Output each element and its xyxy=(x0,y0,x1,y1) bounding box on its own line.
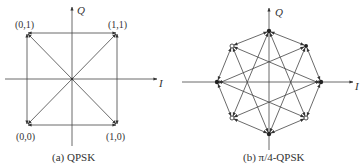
pi4-point-filled xyxy=(267,132,271,136)
pi4-chord xyxy=(270,48,305,132)
pi4-edge xyxy=(307,84,320,116)
pi4-point-filled xyxy=(319,80,323,84)
constellation-figure: Q I (0,1) (1,1) (0,0) (1,0) (a) QPSK xyxy=(0,0,363,167)
pi4-chord xyxy=(219,81,304,117)
pi4-edge xyxy=(234,119,267,133)
pi4-edge xyxy=(271,119,304,133)
pi4-q-label: Q xyxy=(275,6,283,18)
qpsk-point-label-10: (1,0) xyxy=(106,131,125,143)
qpsk-origin xyxy=(71,78,74,81)
qpsk-q-label: Q xyxy=(77,4,85,16)
qpsk-point-label-01: (0,1) xyxy=(15,19,34,31)
pi4-caption: (b) π/4-QPSK xyxy=(243,151,305,164)
pi4-chord xyxy=(219,47,304,83)
pi4-edge xyxy=(307,48,320,80)
qpsk-caption: (a) QPSK xyxy=(52,151,95,164)
pi4-point-filled xyxy=(215,80,219,84)
pi4-chord xyxy=(234,81,319,117)
qpsk-i-label: I xyxy=(158,77,164,89)
pi4-edge xyxy=(218,84,231,116)
pi4-edge xyxy=(218,48,231,80)
pi4-edge xyxy=(271,32,304,45)
pi4-edge xyxy=(234,32,267,45)
qpsk-point-label-11: (1,1) xyxy=(108,19,127,31)
pi4-chord xyxy=(234,47,319,83)
pi4-qpsk-diagram xyxy=(182,8,353,150)
pi4-point-filled xyxy=(304,44,308,48)
pi4-point-filled xyxy=(267,29,271,33)
pi4-point-open xyxy=(304,116,308,120)
pi4-chord xyxy=(233,48,268,132)
qpsk-point-label-00: (0,0) xyxy=(16,131,35,143)
pi4-point-open xyxy=(230,116,234,120)
pi4-point-open xyxy=(230,44,234,48)
pi4-i-label: I xyxy=(354,80,360,92)
